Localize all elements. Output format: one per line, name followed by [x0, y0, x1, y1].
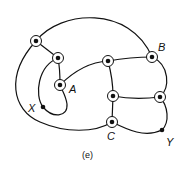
label-Y: Y — [166, 136, 174, 148]
node-B — [147, 52, 158, 63]
node-A — [55, 80, 66, 91]
caption: (e) — [82, 150, 93, 160]
edge-n4-n5 — [113, 96, 160, 98]
node-X — [41, 105, 46, 110]
edge-C-Y — [112, 122, 162, 133]
label-B: B — [158, 41, 165, 53]
edge-A-n3 — [60, 61, 108, 85]
edge-n1-B — [36, 18, 152, 57]
edge-n3-B — [108, 57, 152, 61]
edges — [16, 18, 167, 134]
edge-B-n5 — [152, 57, 167, 97]
label-X: X — [27, 102, 36, 114]
node-C — [107, 117, 118, 128]
node-n2 — [53, 53, 64, 64]
node-n5 — [155, 92, 166, 103]
label-A: A — [68, 83, 76, 95]
node-n4 — [108, 91, 119, 102]
node-Y — [160, 128, 165, 133]
graph-diagram: A B C X Y (e) — [0, 0, 186, 170]
node-n1 — [31, 36, 42, 47]
node-n3 — [103, 56, 114, 67]
nodes — [31, 36, 166, 133]
label-C: C — [107, 130, 115, 142]
